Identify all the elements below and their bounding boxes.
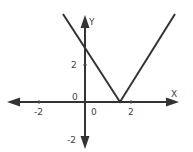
y-tick-label-zero: 0	[72, 92, 78, 102]
y-tick-label-pos2: 2	[71, 60, 77, 70]
x-tick-label-pos2: 2	[128, 107, 134, 117]
y-axis-label: Y	[88, 17, 95, 27]
x-tick-label-zero: 0	[91, 107, 97, 117]
x-tick-label-neg2: -2	[34, 107, 43, 117]
x-axis	[7, 98, 179, 107]
x-axis-label: X	[171, 89, 177, 99]
function-graph: X Y -2 0 2 2 0 -2	[0, 0, 193, 152]
x-axis-left-arrow-icon	[7, 98, 20, 107]
function-curve	[63, 14, 175, 102]
y-axis-down-arrow-icon	[81, 136, 90, 149]
y-axis	[81, 15, 90, 149]
y-tick-label-neg2: -2	[67, 135, 76, 145]
